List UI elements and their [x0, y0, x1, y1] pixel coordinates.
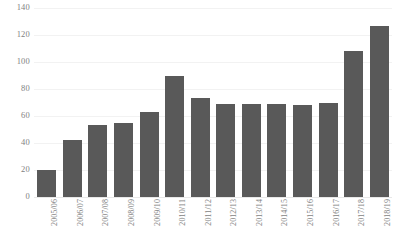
- x-tick-label: 2018/19: [383, 199, 392, 226]
- bar: [37, 170, 56, 197]
- y-tick-label: 40: [0, 138, 30, 147]
- bar-chart: 020406080100120140 2005/062006/072007/08…: [0, 0, 399, 248]
- bar: [267, 104, 286, 197]
- x-tick-label: 2017/18: [357, 199, 366, 226]
- x-tick-label: 2008/09: [127, 199, 136, 226]
- y-tick-label: 60: [0, 111, 30, 120]
- x-tick-label: 2012/13: [229, 199, 238, 226]
- x-tick-label: 2007/08: [101, 199, 110, 226]
- bar: [370, 26, 389, 197]
- y-tick-label: 0: [0, 192, 30, 201]
- bar: [191, 98, 210, 197]
- x-tick-label: 2014/15: [280, 199, 289, 226]
- bar: [344, 51, 363, 197]
- bar: [319, 103, 338, 198]
- x-tick-label: 2005/06: [50, 199, 59, 226]
- bar: [165, 76, 184, 198]
- gridline: [34, 197, 392, 198]
- bar: [88, 125, 107, 197]
- bar: [114, 123, 133, 197]
- x-tick-label: 2010/11: [178, 199, 187, 226]
- bar: [293, 105, 312, 197]
- bar: [140, 112, 159, 197]
- x-axis: 2005/062006/072007/082008/092009/102010/…: [34, 199, 392, 248]
- bar: [63, 140, 82, 197]
- x-tick-label: 2006/07: [76, 199, 85, 226]
- y-tick-label: 80: [0, 84, 30, 93]
- y-axis: 020406080100120140: [0, 0, 30, 248]
- x-tick-label: 2011/12: [204, 199, 213, 226]
- x-tick-label: 2016/17: [332, 199, 341, 226]
- y-tick-label: 20: [0, 165, 30, 174]
- y-tick-label: 120: [0, 30, 30, 39]
- x-tick-label: 2013/14: [255, 199, 264, 226]
- bar: [242, 104, 261, 197]
- y-tick-label: 100: [0, 57, 30, 66]
- y-tick-label: 140: [0, 3, 30, 12]
- bars-layer: [34, 8, 392, 197]
- bar: [216, 104, 235, 197]
- x-tick-label: 2009/10: [153, 199, 162, 226]
- x-tick-label: 2015/16: [306, 199, 315, 226]
